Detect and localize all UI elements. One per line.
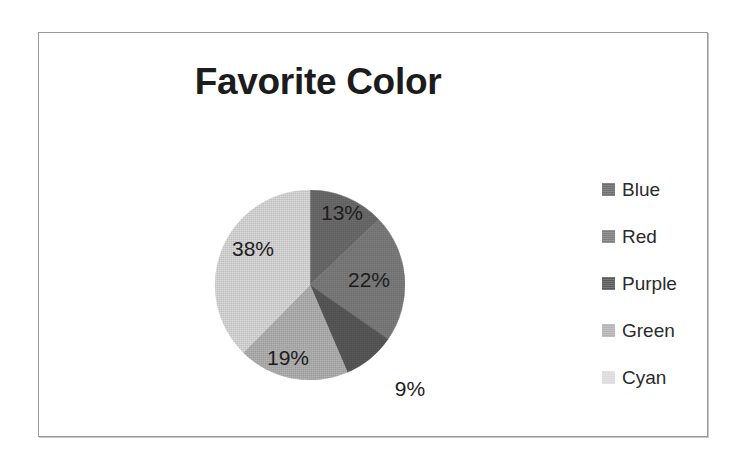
legend-item-red[interactable]: Red xyxy=(602,213,702,260)
legend-item-label: Red xyxy=(622,227,657,246)
legend-swatch-icon xyxy=(602,324,615,337)
legend-swatch-icon xyxy=(602,277,615,290)
slice-label-cyan: 38% xyxy=(232,237,274,261)
slice-label-red: 22% xyxy=(348,268,390,292)
legend-item-label: Blue xyxy=(622,180,660,199)
legend-item-green[interactable]: Green xyxy=(602,307,702,354)
chart-legend: BlueRedPurpleGreenCyan xyxy=(602,166,702,401)
slice-label-green: 19% xyxy=(267,346,309,370)
legend-item-label: Purple xyxy=(622,274,677,293)
legend-swatch-icon xyxy=(602,371,615,384)
legend-item-label: Green xyxy=(622,321,675,340)
legend-item-label: Cyan xyxy=(622,368,666,387)
legend-swatch-icon xyxy=(602,230,615,243)
legend-swatch-icon xyxy=(602,183,615,196)
legend-item-blue[interactable]: Blue xyxy=(602,166,702,213)
slice-label-blue: 13% xyxy=(321,201,363,225)
legend-item-purple[interactable]: Purple xyxy=(602,260,702,307)
slice-label-purple: 9% xyxy=(395,377,425,401)
legend-item-cyan[interactable]: Cyan xyxy=(602,354,702,401)
chart-title: Favorite Color xyxy=(38,62,598,103)
